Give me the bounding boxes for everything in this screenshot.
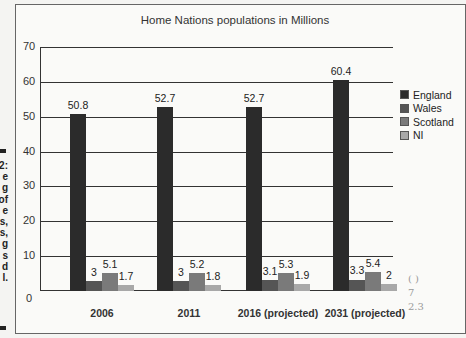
- legend-item-scotland: Scotland: [400, 115, 454, 129]
- bar-value-label: 50.8: [63, 99, 93, 111]
- bar-value-label: 5.3: [271, 258, 301, 270]
- bar-wales: [173, 281, 189, 291]
- y-tick-label: 50: [22, 110, 36, 122]
- handwritten-note: 2.3: [408, 300, 424, 314]
- side-caption-line: e: [0, 205, 8, 216]
- bar-value-label: 1.8: [198, 270, 228, 282]
- side-caption: 2:egofes,s,gsdl.: [0, 160, 8, 283]
- y-tick-label: 60: [22, 75, 36, 87]
- side-caption-line: s,: [0, 216, 8, 227]
- y-tick-label: 30: [22, 179, 36, 191]
- legend-label: England: [413, 89, 452, 101]
- y-tick-label: 0: [22, 292, 36, 304]
- side-caption-line: s,: [0, 227, 8, 238]
- bar-wales: [349, 280, 365, 292]
- bar-value-label: 2: [374, 269, 404, 281]
- legend-item-england: England: [400, 88, 454, 102]
- bar-england: [246, 107, 262, 291]
- caption-marker-bottom: [0, 326, 6, 330]
- x-tick-label: 2011: [139, 307, 239, 319]
- bar-value-label: 1.7: [111, 270, 141, 282]
- legend-item-ni: NI: [400, 129, 454, 143]
- y-tick-label: 40: [22, 145, 36, 157]
- side-caption-line: s: [0, 250, 8, 261]
- bar-value-label: 52.7: [239, 92, 269, 104]
- caption-marker-top: [0, 149, 6, 153]
- legend: EnglandWalesScotlandNI: [400, 88, 454, 142]
- side-caption-line: g: [0, 182, 8, 193]
- bar-value-label: 5.1: [95, 258, 125, 270]
- bar-england: [157, 107, 173, 291]
- side-caption-line: of: [0, 194, 8, 205]
- bar-wales: [262, 280, 278, 291]
- bar-ni: [294, 284, 310, 291]
- y-tick-label: 10: [22, 249, 36, 261]
- handwritten-note: ( ): [408, 272, 424, 286]
- side-caption-line: e: [0, 171, 8, 182]
- side-caption-line: 2:: [0, 160, 8, 171]
- legend-item-wales: Wales: [400, 102, 454, 116]
- bar-value-label: 5.2: [182, 258, 212, 270]
- x-tick-label: 2006: [52, 307, 152, 319]
- bar-ni: [381, 284, 397, 291]
- x-tick-label: 2031 (projected): [315, 307, 415, 319]
- legend-label: NI: [413, 129, 424, 141]
- bar-value-label: 52.7: [150, 92, 180, 104]
- side-caption-line: d: [0, 261, 8, 272]
- bar-ni: [118, 285, 134, 291]
- bar-value-label: 5.4: [358, 257, 388, 269]
- chart-title: Home Nations populations in Millions: [0, 14, 466, 26]
- y-tick-label: 20: [22, 214, 36, 226]
- handwritten-note: 7: [408, 286, 424, 300]
- legend-label: Scotland: [413, 116, 454, 128]
- bar-england: [333, 80, 349, 291]
- legend-label: Wales: [413, 102, 442, 114]
- bar-england: [70, 114, 86, 291]
- legend-swatch: [400, 104, 409, 113]
- bar-wales: [86, 281, 102, 291]
- bar-value-label: 1.9: [287, 269, 317, 281]
- x-tick-label: 2016 (projected): [228, 307, 328, 319]
- legend-swatch: [400, 117, 409, 126]
- bar-value-label: 60.4: [326, 65, 356, 77]
- legend-swatch: [400, 131, 409, 140]
- gridline: [40, 47, 393, 48]
- legend-swatch: [400, 90, 409, 99]
- y-tick-label: 70: [22, 40, 36, 52]
- y-axis: [40, 47, 41, 291]
- plot-area: 50.835.11.752.735.21.852.73.15.31.960.43…: [40, 47, 393, 291]
- handwritten-notes: ( )72.3: [408, 272, 424, 314]
- bar-ni: [205, 285, 221, 291]
- side-caption-line: l.: [0, 272, 8, 283]
- side-caption-line: g: [0, 238, 8, 249]
